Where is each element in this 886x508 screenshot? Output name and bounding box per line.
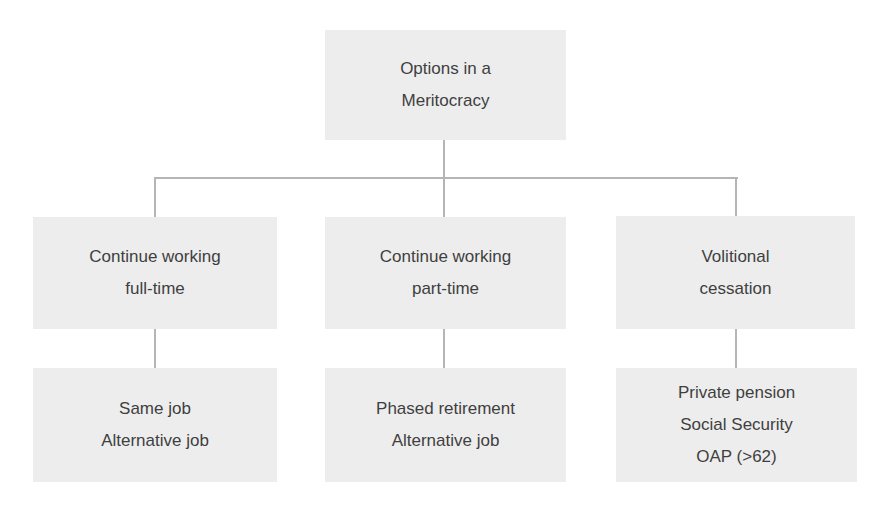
root-node: Options in a Meritocracy xyxy=(325,30,566,140)
node-text: Continue working xyxy=(380,241,511,273)
node-text: full-time xyxy=(125,273,185,305)
node-text: Alternative job xyxy=(101,425,209,457)
node-cessation-options: Private pension Social Security OAP (>62… xyxy=(616,368,857,482)
node-parttime-options: Phased retirement Alternative job xyxy=(325,368,566,482)
node-text: Continue working xyxy=(89,241,220,273)
node-text: part-time xyxy=(412,273,479,305)
connector-to-fulltime xyxy=(154,177,156,217)
root-line-1: Options in a xyxy=(400,53,491,85)
node-text: Same job xyxy=(119,393,191,425)
connector-parttime-down xyxy=(443,329,445,368)
node-text: Social Security xyxy=(680,409,792,441)
node-text: OAP (>62) xyxy=(696,441,776,473)
node-text: Phased retirement xyxy=(376,393,515,425)
node-volitional-cessation: Volitional cessation xyxy=(616,216,855,329)
node-fulltime-options: Same job Alternative job xyxy=(33,368,277,482)
node-text: Private pension xyxy=(678,377,795,409)
node-text: Alternative job xyxy=(392,425,500,457)
connector-horizontal xyxy=(154,177,738,179)
node-text: cessation xyxy=(700,273,772,305)
node-text: Volitional xyxy=(701,241,769,273)
node-continue-full-time: Continue working full-time xyxy=(33,217,277,329)
connector-to-cessation xyxy=(735,177,737,217)
root-line-2: Meritocracy xyxy=(402,85,490,117)
node-continue-part-time: Continue working part-time xyxy=(325,217,566,329)
connector-fulltime-down xyxy=(154,329,156,368)
connector-cessation-down xyxy=(735,329,737,368)
